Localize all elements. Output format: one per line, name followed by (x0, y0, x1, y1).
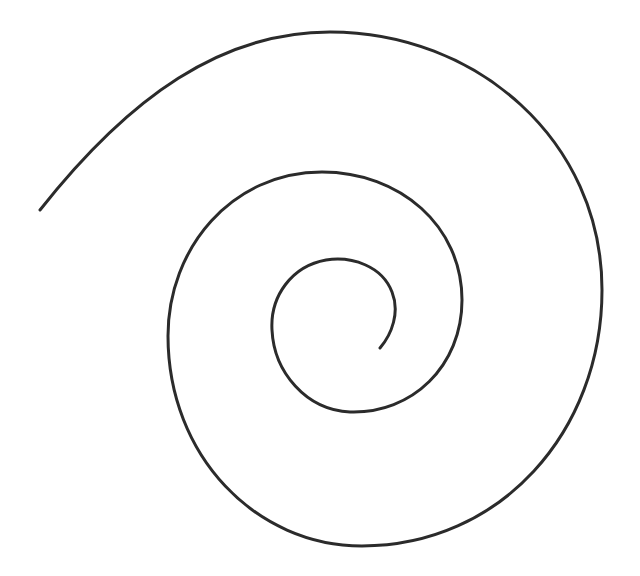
spiral-stroke (40, 32, 602, 546)
spiral-drawing (0, 0, 640, 576)
spiral-svg (0, 0, 640, 576)
